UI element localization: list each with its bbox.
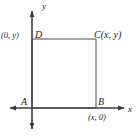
x-axis-label: x — [128, 105, 132, 114]
coordinate-geometry-figure: y x (0, y) D C(x, y) A B (x, 0) — [0, 0, 138, 138]
y-axis-label: y — [42, 2, 46, 11]
vertex-a-label: A — [21, 97, 27, 107]
figure-canvas — [0, 0, 138, 138]
vertex-b-label: B — [98, 97, 104, 107]
vertex-b-coordinate-label: (x, 0) — [88, 113, 106, 122]
vertex-c-label: C(x, y) — [94, 30, 121, 40]
vertex-d-coordinate-label: (0, y) — [1, 31, 19, 40]
vertex-d-label: D — [35, 30, 42, 40]
